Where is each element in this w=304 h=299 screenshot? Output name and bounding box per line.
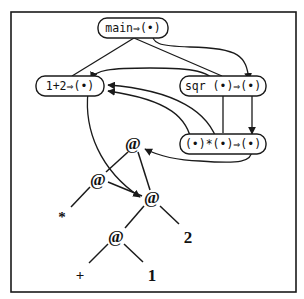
node-mul: (•)*(•)⇒(•) [180,134,266,154]
tree-edge-inner-two [160,206,179,224]
edge-main-to-onetwo [72,38,134,76]
node-main-label: main⇒(•) [105,21,160,35]
node-mul-label: (•)*(•)⇒(•) [185,137,261,151]
node-sqr: sqr (•)⇒(•) [180,76,266,96]
tree-edge-inner-left [125,206,144,228]
node-onetwo-label: 1+2⇒(•) [46,79,94,93]
tree-left-app: @ [90,170,106,189]
edge-mul-arg1-to-onetwo [108,91,192,144]
tree-edge-left-inner [108,182,142,196]
diagram-canvas: main⇒(•) 1+2⇒(•) sqr (•)⇒(•) (•)*(•)⇒(•)… [0,0,304,299]
tree-edge-bottom-plus [89,244,108,263]
tree-leaf-star: * [58,209,66,225]
tree-leaf-one: 1 [148,266,157,285]
tree-root-app: @ [125,134,141,153]
tree-leaf-two: 2 [184,228,193,247]
tree-edge-bottom-one [124,244,143,262]
node-main: main⇒(•) [98,18,168,38]
tree-leaf-plus: + [76,267,85,283]
tree-edge-root-left [106,152,128,172]
tree-edge-root-right [138,152,150,190]
tree-inner-app: @ [144,188,160,207]
edge-main-to-sqr [134,38,222,76]
node-sqr-label: sqr (•)⇒(•) [185,79,261,93]
tree-edge-left-star [71,187,90,207]
tree-bottom-app: @ [108,227,124,246]
node-onetwo: 1+2⇒(•) [36,76,104,96]
